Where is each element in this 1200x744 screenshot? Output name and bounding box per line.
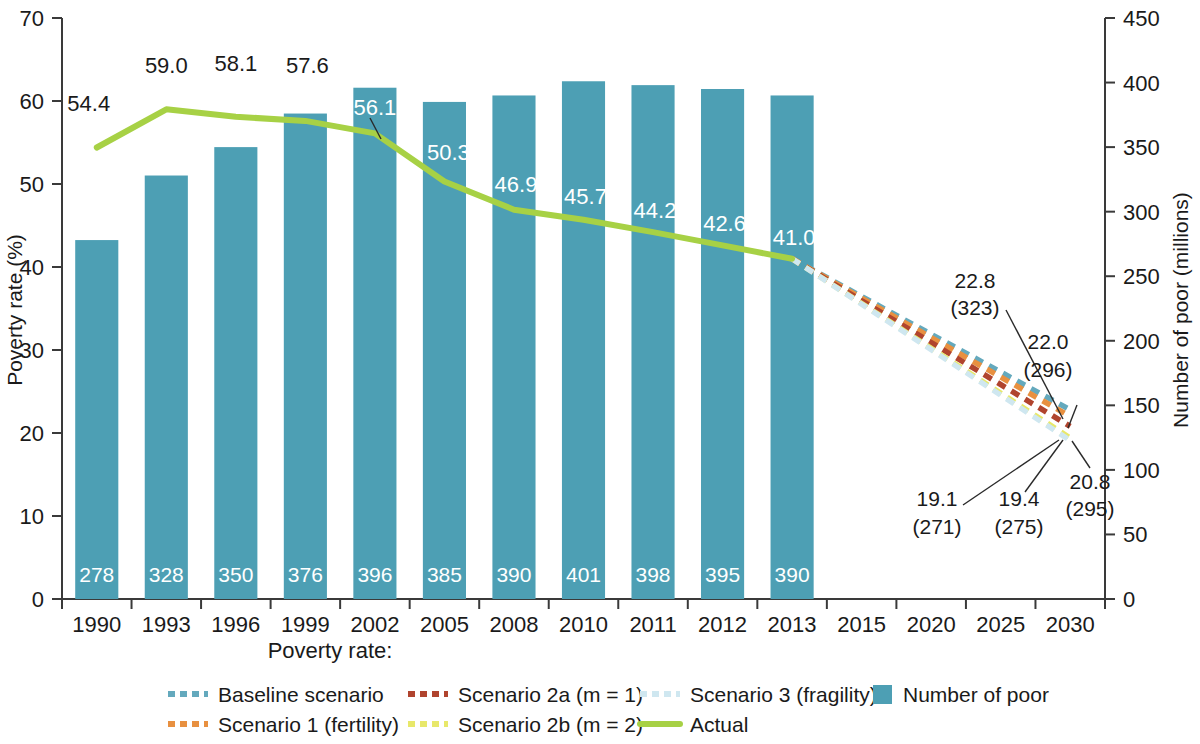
rate-label-2012: 42.6 xyxy=(703,211,746,236)
callout-value: 19.4 xyxy=(999,487,1040,510)
right-tick-label: 150 xyxy=(1123,393,1160,418)
right-tick-label: 300 xyxy=(1123,200,1160,225)
legend-label: Scenario 2b (m = 2) xyxy=(458,713,643,736)
x-tick-label: 1999 xyxy=(281,612,330,637)
right-tick-label: 0 xyxy=(1123,587,1135,612)
right-tick-label: 50 xyxy=(1123,522,1147,547)
callout-19-1: 19.1 (271) xyxy=(912,487,961,538)
x-tick-label: 2011 xyxy=(629,612,676,637)
callout-count: (295) xyxy=(1065,497,1114,520)
right-tick-label: 100 xyxy=(1123,458,1160,483)
legend-label: Scenario 1 (fertility) xyxy=(218,713,399,736)
right-tick-label: 450 xyxy=(1123,6,1160,31)
legend-item-scenario-2a-m-1[interactable]: Scenario 2a (m = 1) xyxy=(408,683,643,706)
legend-label: Scenario 3 (fragility) xyxy=(690,683,877,706)
x-tick-label: 2010 xyxy=(559,612,608,637)
callout-value: 22.8 xyxy=(955,269,996,292)
rate-label-2005: 50.3 xyxy=(427,140,470,165)
legend-item-scenario-2b-m-2[interactable]: Scenario 2b (m = 2) xyxy=(408,713,643,736)
rate-label-2008: 46.9 xyxy=(495,172,538,197)
x-tick-label: 2020 xyxy=(907,612,956,637)
legend-label: Scenario 2a (m = 1) xyxy=(458,683,643,706)
callout-count: (323) xyxy=(950,296,999,319)
bar-2010 xyxy=(562,81,605,599)
legend-swatch-square xyxy=(873,685,892,704)
bar-2002 xyxy=(353,88,396,599)
right-axis-title: Number of poor (millions) xyxy=(1169,192,1192,428)
left-tick-label: 10 xyxy=(20,504,44,529)
left-tick-label: 20 xyxy=(20,421,44,446)
right-tick-label: 350 xyxy=(1123,135,1160,160)
x-tick-label: 1996 xyxy=(211,612,260,637)
right-tick-label: 400 xyxy=(1123,71,1160,96)
poverty-rate-chart: 706050403020100 Poverty rate (%) 4504003… xyxy=(0,0,1200,744)
left-tick-label: 0 xyxy=(32,587,44,612)
x-tick-label: 2008 xyxy=(489,612,538,637)
left-axis: 706050403020100 Poverty rate (%) xyxy=(3,6,62,612)
rate-label-2013: 41.0 xyxy=(773,225,816,250)
legend: Poverty rate: Baseline scenarioScenario … xyxy=(168,638,1049,736)
callout-value: 19.1 xyxy=(917,487,958,510)
chart-canvas: 706050403020100 Poverty rate (%) 4504003… xyxy=(0,0,1200,744)
rate-label-1999: 57.6 xyxy=(286,53,329,78)
bar-1990 xyxy=(75,240,118,599)
x-tick-label: 2015 xyxy=(837,612,886,637)
x-tick-label: 2002 xyxy=(350,612,399,637)
bar-value-label: 390 xyxy=(496,563,531,586)
legend-item-scenario-3-fragility[interactable]: Scenario 3 (fragility) xyxy=(640,683,877,706)
bar-2013 xyxy=(771,95,814,599)
rate-label-2011: 44.2 xyxy=(634,198,677,223)
legend-title: Poverty rate: xyxy=(268,638,393,663)
left-axis-title: Poverty rate (%) xyxy=(3,234,26,386)
x-tick-label: 2013 xyxy=(768,612,817,637)
x-tick-label: 1990 xyxy=(72,612,121,637)
x-tick-label: 2012 xyxy=(698,612,747,637)
callout-count: (296) xyxy=(1023,358,1072,381)
x-tick-label: 2030 xyxy=(1046,612,1095,637)
left-tick-label: 50 xyxy=(20,172,44,197)
callout-20-8: 20.8 (295) xyxy=(1065,470,1114,520)
rate-label-1996: 58.1 xyxy=(214,51,257,76)
rate-label-1990: 54.4 xyxy=(67,91,110,116)
callout-value: 20.8 xyxy=(1070,470,1111,493)
bar-value-label: 398 xyxy=(636,563,671,586)
bar-1996 xyxy=(214,147,257,599)
callout-22-8: 22.8 (323) xyxy=(950,269,999,319)
rate-label-1993: 59.0 xyxy=(145,53,188,78)
left-tick-label: 60 xyxy=(20,89,44,114)
bar-value-label: 385 xyxy=(427,563,462,586)
legend-item-baseline-scenario[interactable]: Baseline scenario xyxy=(168,683,384,706)
right-axis: 450400350300250200150100500 Number of po… xyxy=(1105,6,1192,612)
left-tick-label: 70 xyxy=(20,6,44,31)
bar-value-label: 401 xyxy=(566,563,601,586)
bar-2011 xyxy=(631,85,674,599)
bar-2012 xyxy=(701,89,744,599)
bar-value-label: 396 xyxy=(357,563,392,586)
legend-label: Baseline scenario xyxy=(218,683,384,706)
rate-label-2010: 45.7 xyxy=(564,184,607,209)
bar-2005 xyxy=(423,102,466,599)
callout-count: (275) xyxy=(994,515,1043,538)
bar-value-label: 278 xyxy=(79,563,114,586)
callout-19-4: 19.4 (275) xyxy=(994,487,1043,538)
bar-value-label: 328 xyxy=(149,563,184,586)
right-tick-label: 200 xyxy=(1123,329,1160,354)
legend-label: Actual xyxy=(690,713,748,736)
callout-value: 22.0 xyxy=(1028,330,1069,353)
x-tick-label: 2025 xyxy=(976,612,1025,637)
bar-value-labels: 278328350376396385390401398395390 xyxy=(79,563,809,586)
callout-22-0: 22.0 (296) xyxy=(1023,330,1072,381)
x-tick-label: 1993 xyxy=(142,612,191,637)
bar-value-label: 395 xyxy=(705,563,740,586)
legend-item-scenario-1-fertility[interactable]: Scenario 1 (fertility) xyxy=(168,713,399,736)
legend-item-number-of-poor[interactable]: Number of poor xyxy=(873,683,1049,706)
bar-1993 xyxy=(145,176,188,599)
bar-value-label: 390 xyxy=(775,563,810,586)
bottom-axis: 1990199319961999200220052008201020112012… xyxy=(62,599,1105,637)
x-tick-label: 2005 xyxy=(420,612,469,637)
legend-label: Number of poor xyxy=(903,683,1049,706)
legend-item-actual[interactable]: Actual xyxy=(640,713,748,736)
callout-count: (271) xyxy=(912,515,961,538)
right-tick-label: 250 xyxy=(1123,264,1160,289)
bar-value-label: 350 xyxy=(218,563,253,586)
